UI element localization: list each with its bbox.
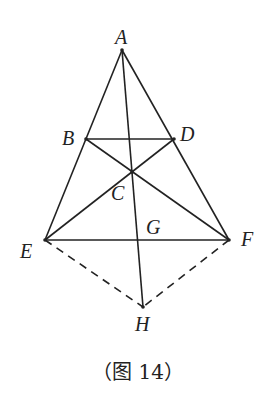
- segment-EH-dashed: [45, 240, 143, 307]
- figure-caption: （图 14）: [0, 356, 276, 385]
- label-F: F: [240, 228, 254, 250]
- label-G: G: [146, 216, 161, 238]
- label-B: B: [62, 127, 74, 149]
- geometry-figure: A B D C E F G H: [0, 0, 276, 398]
- point-A: [120, 48, 124, 52]
- segment-FH-dashed: [143, 240, 229, 307]
- point-C: [130, 170, 134, 174]
- point-H: [141, 305, 145, 309]
- label-A: A: [113, 26, 128, 48]
- point-E: [43, 238, 47, 242]
- label-C: C: [111, 182, 125, 204]
- label-H: H: [134, 313, 151, 335]
- point-D: [172, 137, 176, 141]
- point-B: [84, 137, 88, 141]
- segment-AF: [122, 50, 229, 240]
- point-F: [227, 238, 231, 242]
- segment-AE: [45, 50, 122, 240]
- segment-AH: [122, 50, 143, 307]
- label-D: D: [179, 123, 195, 145]
- label-E: E: [19, 240, 32, 262]
